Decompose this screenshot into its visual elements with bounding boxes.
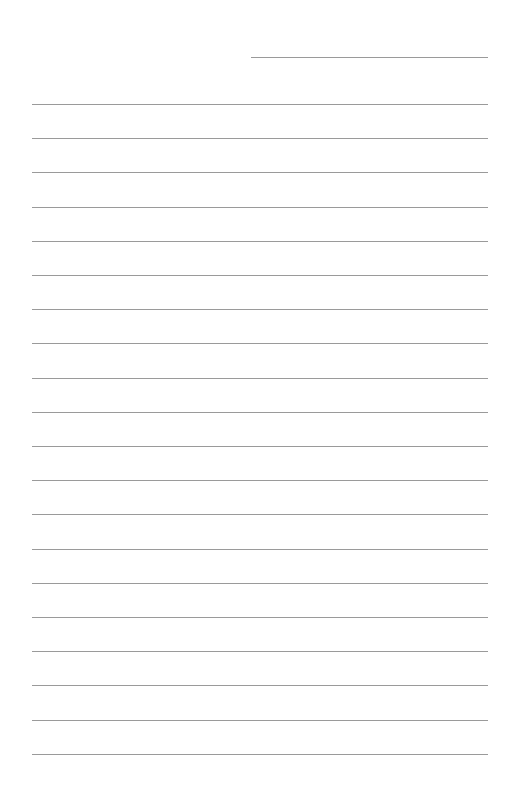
ruled-line (32, 138, 488, 139)
ruled-line (32, 446, 488, 447)
ruled-line (32, 241, 488, 242)
lined-paper-page (0, 0, 513, 803)
ruled-line (32, 583, 488, 584)
ruled-line (32, 412, 488, 413)
ruled-line (32, 651, 488, 652)
ruled-line (32, 480, 488, 481)
ruled-line (32, 754, 488, 755)
ruled-line (32, 309, 488, 310)
ruled-line (32, 685, 488, 686)
ruled-line (32, 720, 488, 721)
ruled-line (32, 514, 488, 515)
ruled-line (32, 549, 488, 550)
ruled-line (32, 343, 488, 344)
ruled-line (32, 275, 488, 276)
header-line (251, 57, 488, 58)
ruled-line (32, 207, 488, 208)
ruled-line (32, 172, 488, 173)
ruled-line (32, 617, 488, 618)
ruled-line (32, 378, 488, 379)
ruled-line (32, 104, 488, 105)
